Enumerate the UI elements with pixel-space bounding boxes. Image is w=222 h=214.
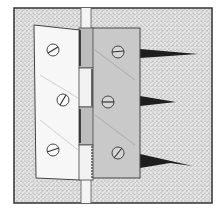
screw-icon — [47, 44, 59, 56]
knuckle-3 — [79, 107, 93, 145]
screw-icon — [112, 46, 124, 58]
hinge-illustration — [0, 0, 222, 214]
screw-icon — [112, 147, 124, 159]
screw-icon — [47, 144, 59, 156]
screw-icon — [57, 94, 69, 106]
screw-icon — [102, 96, 114, 108]
hinge-knuckles — [79, 28, 93, 180]
knuckle-2 — [79, 68, 93, 107]
knuckle-1 — [79, 28, 93, 68]
knuckle-4 — [79, 145, 93, 180]
